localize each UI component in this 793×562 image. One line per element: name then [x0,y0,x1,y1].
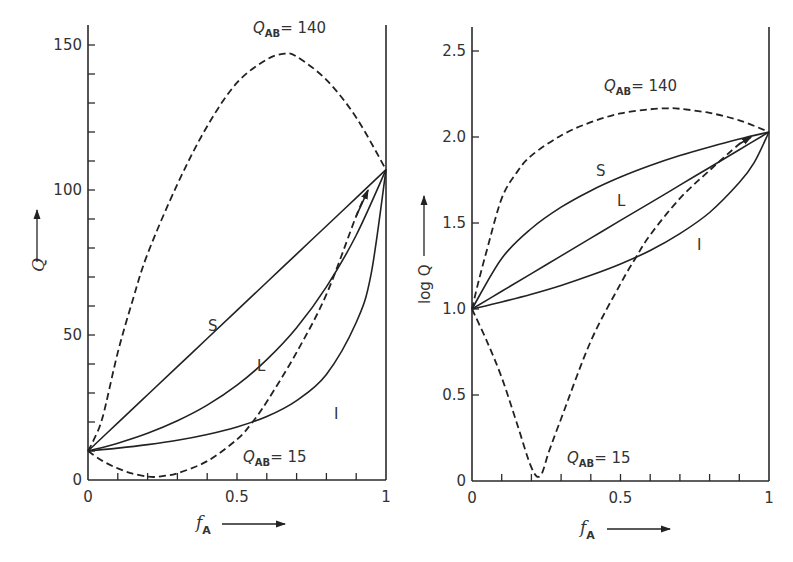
y-tick-label: 1.0 [442,300,466,318]
left-curves [88,53,386,477]
curve-q-ab-140 [88,53,386,451]
x-tick-label: 0.5 [225,488,249,506]
label-i: I [334,405,338,423]
figure: 00.51050100150 S L I QAB= 140 QAB= 15 Q … [0,0,793,562]
left-y-axis-label: Q [28,210,48,272]
right-chart-panel: 00.5100.51.01.52.02.5 S L I QAB= 140 QAB… [416,27,774,542]
y-tick-label: 0 [456,472,466,490]
right-ylabel: log Q [416,265,434,304]
curve-q-ab-15 [472,137,751,477]
left-x-axis-label: fA [194,512,285,537]
right-x-axis-label: fA [578,517,670,542]
label-s: S [596,162,606,180]
label-l: L [257,357,266,375]
y-tick-label: 1.5 [442,214,466,232]
left-chart-panel: 00.51050100150 S L I QAB= 140 QAB= 15 Q … [28,19,391,537]
y-tick-label: 50 [63,326,82,344]
x-tick-label: 0 [467,489,477,507]
x-tick-label: 0.5 [609,489,633,507]
y-tick-label: 2.5 [442,42,466,60]
x-tick-label: 1 [381,488,391,506]
right-y-axis-label: log Q [416,196,434,304]
y-tick-label: 0.5 [442,386,466,404]
left-curve-labels: S L I [208,317,338,423]
label-i: I [697,236,701,254]
left-plot-frame [88,25,386,480]
y-tick-label: 150 [53,36,82,54]
y-tick-label: 0 [72,471,82,489]
right-qab-140-label: QAB= 140 [604,77,677,97]
right-qab-15-label: QAB= 15 [567,449,631,469]
y-tick-label: 100 [53,181,82,199]
left-qab-15-label: QAB= 15 [243,448,307,468]
right-curve-labels: S L I [596,162,701,254]
left-xlabel: fA [194,512,211,537]
right-curves [472,108,769,477]
x-tick-label: 1 [764,489,774,507]
left-qab-140-label: QAB= 140 [253,19,326,39]
curve-l [472,132,769,309]
curve-q-ab-15 [88,190,368,477]
label-s: S [208,317,218,335]
label-l: L [617,192,626,210]
curve-s [88,170,386,451]
left-ylabel: Q [28,258,48,272]
right-xlabel: fA [578,517,595,542]
y-tick-label: 2.0 [442,128,466,146]
x-tick-label: 0 [83,488,93,506]
